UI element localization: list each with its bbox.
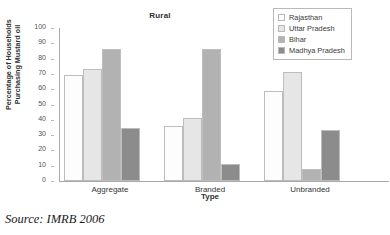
legend-swatch — [278, 14, 285, 21]
bar-group: Branded — [160, 28, 260, 181]
y-tick-mark — [51, 89, 54, 90]
y-tick-mark — [51, 74, 54, 75]
y-tick-mark — [51, 59, 54, 60]
bar — [264, 91, 283, 181]
bar — [221, 164, 240, 181]
source-caption: Source: IMRB 2006 — [5, 212, 105, 227]
legend-label: Madhya Pradesh — [289, 46, 345, 55]
y-tick: 30 — [2, 135, 54, 136]
y-tick-label: 60 — [6, 84, 46, 91]
chart-title: Rural — [0, 11, 320, 20]
y-tick-mark — [51, 181, 54, 182]
y-tick-mark — [51, 28, 54, 29]
y-tick: 20 — [2, 150, 54, 151]
bar-group: Aggregate — [60, 28, 160, 181]
y-tick: 50 — [2, 105, 54, 106]
y-tick-label: 90 — [6, 38, 46, 45]
y-tick-mark — [51, 43, 54, 44]
y-tick: 10 — [2, 166, 54, 167]
legend-label: Rajasthan — [289, 13, 322, 22]
chart-figure: Rural Percentage of Households Purchasin… — [0, 0, 390, 205]
legend-item: Madhya Pradesh — [278, 45, 345, 56]
y-tick-label: 0 — [6, 176, 46, 183]
bar — [164, 126, 183, 181]
legend-item: Bihar — [278, 34, 345, 45]
bar — [121, 128, 140, 181]
bar — [283, 72, 302, 181]
legend-swatch — [278, 25, 285, 32]
bar — [302, 169, 321, 181]
x-axis-title: Type — [60, 192, 360, 201]
y-tick: 0 — [2, 181, 54, 182]
y-tick: 60 — [2, 89, 54, 90]
y-tick: 40 — [2, 120, 54, 121]
y-tick-label: 30 — [6, 130, 46, 137]
y-tick-mark — [51, 135, 54, 136]
bar — [83, 69, 102, 181]
y-tick: 80 — [2, 59, 54, 60]
y-tick-label: 10 — [6, 161, 46, 168]
y-tick-mark — [51, 120, 54, 121]
y-tick-label: 50 — [6, 100, 46, 107]
bar — [321, 130, 340, 181]
legend-item: Rajasthan — [278, 12, 345, 23]
y-tick-label: 20 — [6, 145, 46, 152]
bar — [102, 49, 121, 181]
legend-swatch — [278, 36, 285, 43]
y-tick-mark — [51, 150, 54, 151]
x-axis-line — [59, 181, 389, 182]
legend-swatch — [278, 47, 285, 54]
y-tick-label: 100 — [6, 23, 46, 30]
y-tick-label: 40 — [6, 115, 46, 122]
legend-item: Uttar Pradesh — [278, 23, 345, 34]
legend-label: Bihar — [289, 35, 306, 44]
bar — [183, 118, 202, 181]
y-tick-label: 80 — [6, 54, 46, 61]
y-tick-mark — [51, 105, 54, 106]
y-tick-label: 70 — [6, 69, 46, 76]
y-tick-mark — [51, 166, 54, 167]
bar — [202, 49, 221, 181]
y-tick: 70 — [2, 74, 54, 75]
legend-label: Uttar Pradesh — [289, 24, 335, 33]
y-tick: 100 — [2, 28, 54, 29]
bar — [64, 75, 83, 181]
chart-legend: RajasthanUttar PradeshBiharMadhya Prades… — [273, 8, 352, 60]
y-tick: 90 — [2, 43, 54, 44]
